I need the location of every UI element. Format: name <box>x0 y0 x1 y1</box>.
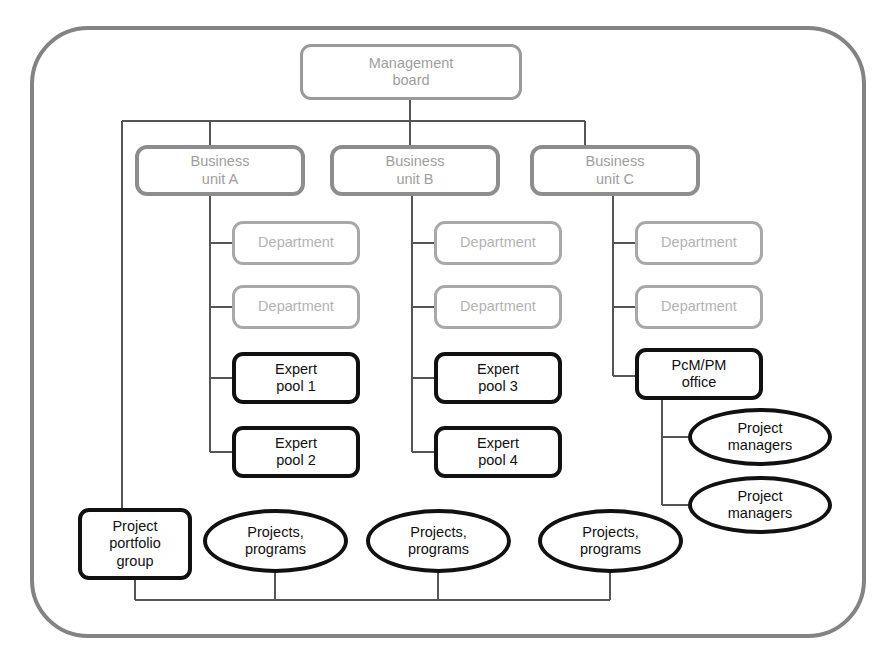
node-project-managers-2[interactable]: Project managers <box>688 476 832 534</box>
node-projects-programs-2[interactable]: Projects, programs <box>366 509 511 573</box>
node-department-a1[interactable]: Department <box>232 221 360 265</box>
node-pcm-pm-office[interactable]: PcM/PM office <box>635 348 763 400</box>
node-department-c1[interactable]: Department <box>635 221 763 265</box>
node-business-unit-b[interactable]: Business unit B <box>330 145 500 196</box>
node-business-unit-a[interactable]: Business unit A <box>135 145 305 196</box>
node-project-portfolio-group[interactable]: Project portfolio group <box>78 508 192 580</box>
node-management-board[interactable]: Management board <box>300 44 522 100</box>
node-expert-pool-1[interactable]: Expert pool 1 <box>232 352 360 404</box>
node-projects-programs-3[interactable]: Projects, programs <box>538 509 683 573</box>
node-department-b2[interactable]: Department <box>434 285 562 329</box>
node-project-managers-1[interactable]: Project managers <box>688 408 832 466</box>
node-department-b1[interactable]: Department <box>434 221 562 265</box>
node-expert-pool-3[interactable]: Expert pool 3 <box>434 352 562 404</box>
node-business-unit-c[interactable]: Business unit C <box>530 145 700 196</box>
node-department-a2[interactable]: Department <box>232 285 360 329</box>
node-department-c2[interactable]: Department <box>635 285 763 329</box>
diagram-canvas: Management board Business unit A Busines… <box>0 0 890 668</box>
node-expert-pool-2[interactable]: Expert pool 2 <box>232 426 360 478</box>
node-projects-programs-1[interactable]: Projects, programs <box>203 509 348 573</box>
node-expert-pool-4[interactable]: Expert pool 4 <box>434 426 562 478</box>
